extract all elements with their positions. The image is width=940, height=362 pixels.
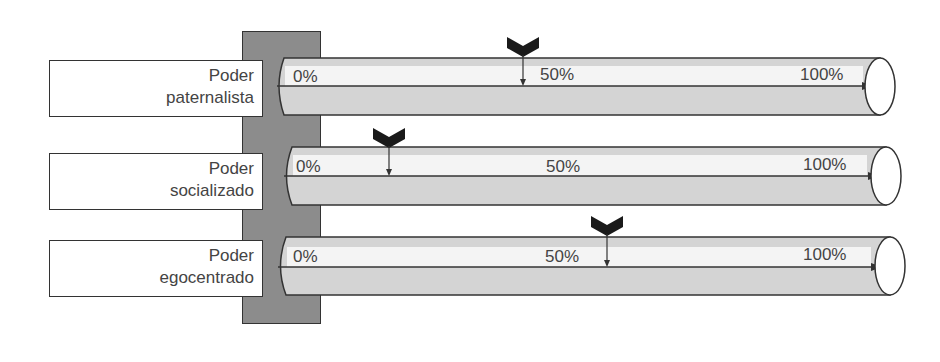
tick-50: 50% [540,65,574,84]
label-line2: egocentrado [50,267,254,289]
tick-100: 100% [800,65,843,84]
tick-50: 50% [546,157,580,176]
label-poder-paternalista: Poder paternalista [49,60,263,117]
tube-row-1: 0% 50% 100% [277,37,895,115]
label-line1: Poder [50,65,254,87]
label-poder-egocentrado: Poder egocentrado [49,240,263,297]
label-poder-socializado: Poder socializado [49,153,263,210]
label-line1: Poder [50,158,254,180]
tick-100: 100% [803,245,846,264]
tube-row-3: 0% 50% 100% [278,216,905,295]
label-line2: socializado [50,180,254,202]
tick-100: 100% [803,155,846,174]
label-line2: paternalista [50,87,254,109]
tick-0: 0% [293,67,318,86]
label-line1: Poder [50,245,254,267]
tick-0: 0% [296,157,321,176]
tube-row-2: 0% 50% 100% [284,128,901,205]
tick-0: 0% [293,247,318,266]
tick-50: 50% [545,247,579,266]
